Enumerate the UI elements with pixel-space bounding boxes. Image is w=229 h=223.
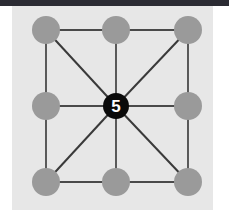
- node-top-center[interactable]: [102, 16, 130, 44]
- node-middle-right-circle[interactable]: [174, 92, 202, 120]
- node-middle-left-circle[interactable]: [32, 92, 60, 120]
- node-top-center-circle[interactable]: [102, 16, 130, 44]
- graph-edge-5-1: [46, 30, 116, 106]
- graph-canvas: 5: [0, 0, 229, 223]
- node-bottom-left[interactable]: [32, 168, 60, 196]
- node-top-left[interactable]: [32, 16, 60, 44]
- node-middle-right[interactable]: [174, 92, 202, 120]
- node-bottom-left-circle[interactable]: [32, 168, 60, 196]
- node-top-right[interactable]: [174, 16, 202, 44]
- graph-edge-5-7: [46, 106, 116, 182]
- node-bottom-right-circle[interactable]: [174, 168, 202, 196]
- node-top-right-circle[interactable]: [174, 16, 202, 44]
- node-middle-left[interactable]: [32, 92, 60, 120]
- node-bottom-center-circle[interactable]: [102, 168, 130, 196]
- node-top-left-circle[interactable]: [32, 16, 60, 44]
- node-center[interactable]: 5: [103, 93, 129, 119]
- graph-edge-5-9: [116, 106, 188, 182]
- node-bottom-center[interactable]: [102, 168, 130, 196]
- grid-graph-diagram: 5: [0, 0, 229, 223]
- graph-edge-5-3: [116, 30, 188, 106]
- node-center-label: 5: [111, 97, 120, 116]
- node-bottom-right[interactable]: [174, 168, 202, 196]
